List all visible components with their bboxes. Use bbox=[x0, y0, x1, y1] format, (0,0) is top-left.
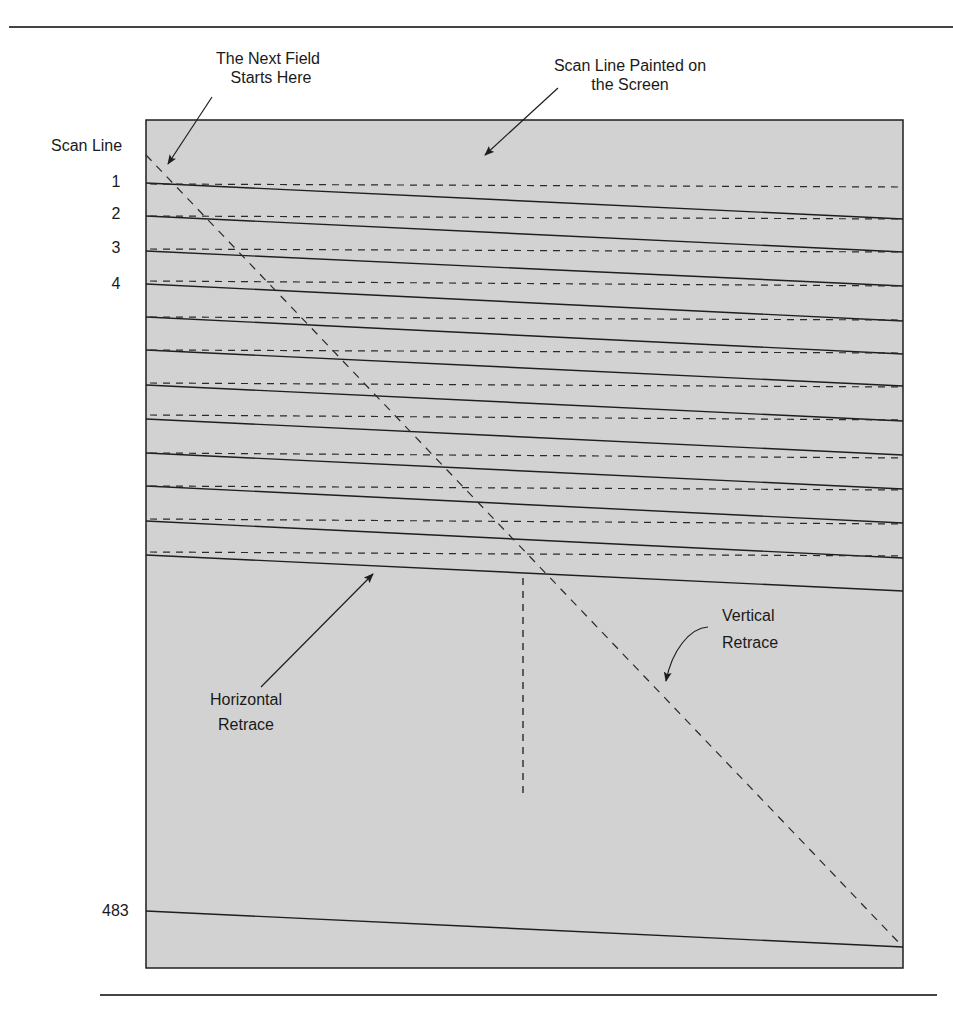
horizontal-retrace-label: Horizontal Retrace bbox=[196, 690, 296, 734]
scan-line-painted-label-line-1: Scan Line Painted on bbox=[530, 56, 730, 75]
scan-line-number-4: 4 bbox=[106, 275, 126, 293]
next-field-label-line-1: The Next Field bbox=[195, 49, 341, 68]
scan-line-number-2: 2 bbox=[106, 205, 126, 223]
next-field-label: The Next Field Starts Here bbox=[195, 49, 341, 87]
vertical-retrace-label-line-1: Vertical bbox=[722, 606, 778, 625]
scan-line-painted-label: Scan Line Painted on the Screen bbox=[530, 56, 730, 94]
scan-line-number-483: 483 bbox=[102, 901, 129, 920]
horizontal-retrace-label-line-1: Horizontal bbox=[196, 690, 296, 709]
scan-line-axis-label: Scan Line bbox=[51, 136, 122, 155]
raster-scan-diagram bbox=[0, 0, 953, 1025]
vertical-retrace-label-line-2: Retrace bbox=[722, 633, 778, 652]
scan-line-painted-label-line-2: the Screen bbox=[530, 75, 730, 94]
vertical-retrace-label: Vertical Retrace bbox=[722, 606, 778, 652]
scan-line-number-3: 3 bbox=[106, 239, 126, 257]
scan-line-number-1: 1 bbox=[106, 173, 126, 191]
horizontal-retrace-label-line-2: Retrace bbox=[196, 715, 296, 734]
next-field-label-line-2: Starts Here bbox=[195, 68, 341, 87]
